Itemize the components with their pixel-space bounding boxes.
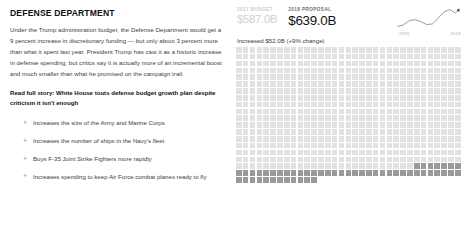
waffle-cell-empty (352, 177, 358, 183)
waffle-cell-base (366, 68, 372, 74)
waffle-cell-base (304, 81, 310, 87)
waffle-cell-base (284, 95, 290, 101)
sparkline-svg (396, 8, 462, 30)
plus-icon: + (23, 118, 27, 128)
waffle-cell-base (393, 109, 399, 115)
waffle-cell-base (318, 95, 324, 101)
sparkline-chart: 1976 2018 (396, 8, 462, 36)
waffle-cell-base (400, 115, 406, 121)
list-item-label: Increases the number of ships in the Nav… (33, 137, 164, 144)
waffle-cell-base (414, 81, 420, 87)
waffle-cell-base (325, 68, 331, 74)
waffle-cell-base (346, 143, 352, 149)
waffle-cell-base (257, 95, 263, 101)
waffle-cell-base (270, 143, 276, 149)
waffle-cell-base (346, 81, 352, 87)
waffle-cell-base (291, 163, 297, 169)
waffle-cell-base (448, 102, 454, 108)
waffle-cell-increase (393, 170, 399, 176)
waffle-cell-base (243, 95, 249, 101)
waffle-cell-base (284, 115, 290, 121)
waffle-cell-base (325, 143, 331, 149)
waffle-cell-base (407, 157, 413, 163)
waffle-cell-increase (311, 177, 317, 183)
waffle-cell-base (414, 88, 420, 94)
waffle-cell-base (373, 74, 379, 80)
waffle-cell-base (441, 143, 447, 149)
waffle-cell-base (387, 163, 393, 169)
waffle-cell-base (346, 150, 352, 156)
waffle-cell-base (270, 163, 276, 169)
stat-previous-value: $587.0B (237, 14, 277, 25)
waffle-cell-empty (346, 177, 352, 183)
waffle-row (236, 54, 464, 61)
waffle-cell-empty (428, 177, 434, 183)
waffle-cell-increase (441, 163, 447, 169)
waffle-cell-base (236, 136, 242, 142)
waffle-cell-base (352, 61, 358, 67)
waffle-cell-empty (441, 177, 447, 183)
waffle-cell-increase (263, 177, 269, 183)
waffle-cell-base (359, 163, 365, 169)
waffle-cell-base (332, 109, 338, 115)
waffle-cell-base (448, 109, 454, 115)
waffle-cell-base (263, 102, 269, 108)
waffle-cell-base (455, 95, 461, 101)
waffle-cell-base (393, 68, 399, 74)
waffle-cell-base (250, 81, 256, 87)
waffle-row (236, 88, 464, 95)
waffle-cell-base (325, 88, 331, 94)
waffle-cell-base (400, 95, 406, 101)
waffle-cell-base (387, 109, 393, 115)
waffle-cell-base (257, 102, 263, 108)
waffle-cell-base (393, 129, 399, 135)
waffle-cell-base (448, 88, 454, 94)
waffle-cell-base (277, 129, 283, 135)
waffle-cell-base (291, 136, 297, 142)
waffle-cell-base (380, 157, 386, 163)
waffle-cell-empty (339, 177, 345, 183)
waffle-cell-base (311, 129, 317, 135)
waffle-cell-base (352, 115, 358, 121)
waffle-cell-base (428, 157, 434, 163)
waffle-cell-empty (332, 177, 338, 183)
waffle-cell-base (441, 47, 447, 53)
waffle-cell-base (366, 81, 372, 87)
waffle-cell-base (421, 143, 427, 149)
waffle-cell-base (366, 95, 372, 101)
waffle-cell-base (291, 81, 297, 87)
waffle-cell-base (346, 95, 352, 101)
waffle-cell-base (387, 68, 393, 74)
waffle-row (236, 136, 464, 143)
waffle-cell-base (277, 68, 283, 74)
waffle-cell-base (257, 129, 263, 135)
waffle-cell-base (304, 163, 310, 169)
waffle-cell-base (407, 54, 413, 60)
waffle-cell-base (318, 61, 324, 67)
waffle-cell-base (270, 61, 276, 67)
budget-waffle-chart (236, 47, 464, 184)
waffle-cell-increase (250, 170, 256, 176)
waffle-cell-base (434, 54, 440, 60)
waffle-cell-base (257, 163, 263, 169)
waffle-cell-base (263, 54, 269, 60)
waffle-cell-base (339, 136, 345, 142)
waffle-cell-base (359, 68, 365, 74)
waffle-cell-base (373, 163, 379, 169)
waffle-cell-base (243, 150, 249, 156)
waffle-cell-base (243, 47, 249, 53)
waffle-cell-base (352, 102, 358, 108)
waffle-cell-base (236, 54, 242, 60)
waffle-cell-base (339, 150, 345, 156)
waffle-cell-base (441, 115, 447, 121)
waffle-cell-base (359, 157, 365, 163)
read-full-story-link[interactable]: Read full story: White House touts defen… (10, 88, 222, 108)
waffle-cell-base (393, 157, 399, 163)
waffle-cell-base (318, 129, 324, 135)
waffle-cell-base (298, 163, 304, 169)
waffle-cell-base (352, 95, 358, 101)
waffle-cell-base (304, 68, 310, 74)
waffle-cell-increase (257, 177, 263, 183)
waffle-cell-base (407, 163, 413, 169)
waffle-cell-base (263, 68, 269, 74)
